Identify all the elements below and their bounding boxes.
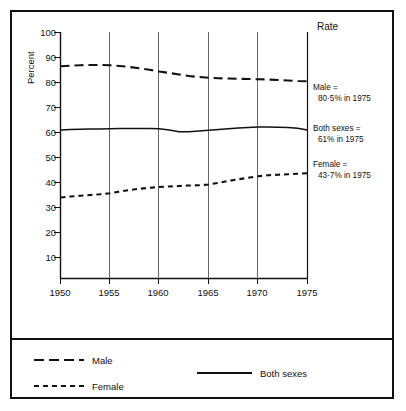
annotation-both-sexes: Both sexes = 61% in 1975 [313,124,364,144]
y-axis-title: Percent [25,51,36,84]
y-tick-100: 100 [40,27,56,38]
x-tick-1965: 1965 [197,287,218,298]
x-tick-1975: 1975 [296,287,317,298]
legend-label-male: Male [92,355,113,366]
legend-label-both-sexes: Both sexes [260,368,307,379]
legend-item-both-sexes: Both sexes [197,368,307,379]
annotation-female: Female = 43·7% in 1975 [313,160,371,180]
legend-label-female: Female [92,381,124,392]
x-tick-1955: 1955 [98,287,119,298]
legend-divider [12,338,392,340]
rate-header: Rate [317,21,339,32]
legend-item-female: Female [34,381,124,392]
annotation-female-line2: 43·7% in 1975 [318,171,371,180]
legend-panel: Male Female Both sexes [12,342,396,402]
annotation-both-line1: Both sexes = [313,124,361,133]
plot-area: Rate Percent 100 90 80 70 60 50 40 30 20… [12,12,396,338]
chart-frame: Rate Percent 100 90 80 70 60 50 40 30 20… [10,10,394,399]
series-line-male [61,65,308,81]
annotation-female-line1: Female = [313,160,348,169]
series-line-both-sexes [61,127,308,132]
annotation-male-line1: Male = [313,83,338,92]
x-tick-1970: 1970 [246,287,267,298]
vertical-gridlines [110,32,258,278]
annotation-both-line2: 61% in 1975 [318,135,364,144]
annotation-male: Male = 80·5% in 1975 [313,83,371,103]
x-axis-ticks: 1950 1955 1960 1965 1970 1975 [49,287,317,298]
x-tick-1950: 1950 [49,287,70,298]
y-tick-marks [54,33,60,258]
chart-svg: Rate Percent 100 90 80 70 60 50 40 30 20… [12,12,396,338]
series-line-female [61,173,308,197]
x-tick-1960: 1960 [147,287,168,298]
legend-item-male: Male [34,355,113,366]
annotation-male-line2: 80·5% in 1975 [318,94,371,103]
y-axis-ticks: 100 90 80 70 60 50 40 30 20 10 [40,27,56,263]
